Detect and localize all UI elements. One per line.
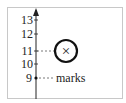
axis-arrow-icon xyxy=(33,8,39,16)
tick-label-12: 12 xyxy=(21,27,33,41)
tick-label-9: 9 xyxy=(26,71,32,85)
marks-label: marks xyxy=(56,71,86,85)
tick-label-13: 13 xyxy=(21,13,33,27)
dot-marker xyxy=(34,76,37,79)
tick-label-10: 10 xyxy=(21,57,33,71)
tick-label-11: 11 xyxy=(21,44,33,58)
number-line-diagram: 13 12 11 10 9 × marks xyxy=(0,0,126,103)
x-symbol: × xyxy=(62,43,70,59)
